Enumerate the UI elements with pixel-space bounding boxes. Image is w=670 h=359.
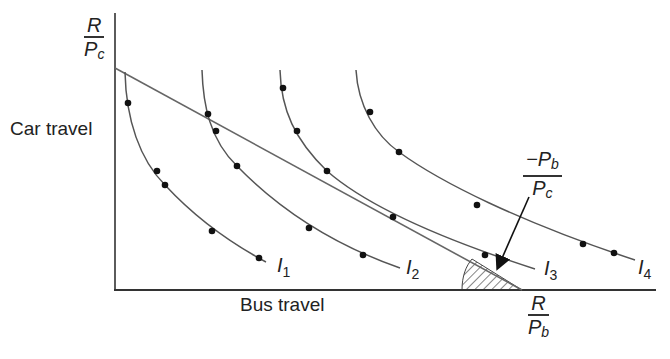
- y-intercept-denominator: Pc: [84, 38, 104, 65]
- indifference-curve-i4: [356, 70, 635, 260]
- dots-i2: [205, 111, 367, 259]
- indifference-curve-i1: [125, 72, 266, 262]
- x-intercept-numerator: R: [528, 292, 548, 314]
- x-intercept-denominator: Pb: [528, 316, 549, 343]
- curve-label-i2: I2: [406, 256, 419, 282]
- curve-label-i3: I3: [544, 257, 557, 283]
- slope-numerator: −Pb: [523, 148, 562, 175]
- slope-arrow: [499, 197, 529, 265]
- y-axis-label: Car travel: [10, 118, 92, 140]
- x-axis-label: Bus travel: [240, 294, 324, 316]
- indifference-curve-i3: [280, 70, 535, 269]
- curve-label-i1: I1: [277, 254, 290, 280]
- slope-denominator: Pc: [532, 177, 552, 204]
- budget-line: [115, 68, 522, 290]
- slope-label: −Pb Pc: [523, 148, 562, 204]
- dots-i4: [367, 109, 618, 257]
- curve-label-i4: I4: [638, 256, 651, 282]
- dots-i3: [280, 85, 489, 259]
- y-intercept-numerator: R: [84, 14, 104, 36]
- x-intercept-label: R Pb: [528, 292, 549, 343]
- y-intercept-label: R Pc: [84, 14, 104, 65]
- dots-i1: [125, 100, 263, 262]
